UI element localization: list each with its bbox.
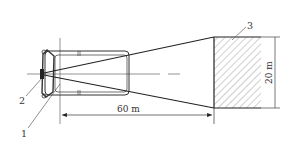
distance-dimension-label: 60 m [117, 104, 140, 114]
beam-test-diagram: 20 m 60 m 2 1 3 [0, 0, 296, 146]
height-dimension-label: 20 m [264, 61, 274, 84]
target-screen [214, 37, 261, 108]
headlamp [40, 69, 44, 79]
label-target-screen: 3 [247, 20, 253, 31]
label-vehicle: 1 [21, 128, 27, 139]
label-headlamp: 2 [19, 95, 25, 106]
